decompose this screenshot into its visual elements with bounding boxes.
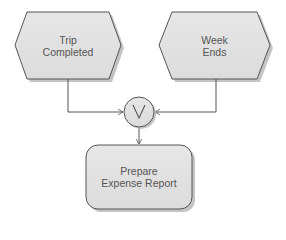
prepare-expense-report-line2: Expense Report bbox=[86, 177, 192, 189]
edge-trip-to-connector bbox=[68, 79, 123, 112]
week-ends-line2: Ends bbox=[159, 46, 270, 58]
edge-week-to-connector bbox=[155, 79, 216, 112]
trip-completed-line2: Completed bbox=[15, 46, 121, 58]
prepare-expense-report-label: Prepare Expense Report bbox=[86, 165, 192, 189]
or-connector[interactable] bbox=[124, 97, 154, 127]
prepare-expense-report-line1: Prepare bbox=[86, 165, 192, 177]
week-ends-line1: Week bbox=[159, 34, 270, 46]
week-ends-label: Week Ends bbox=[159, 34, 270, 58]
trip-completed-line1: Trip bbox=[15, 34, 121, 46]
trip-completed-label: Trip Completed bbox=[15, 34, 121, 58]
